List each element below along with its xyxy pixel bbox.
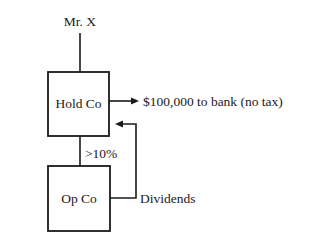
dividends-line [110, 124, 136, 198]
owner-label: Mr. X [64, 14, 97, 29]
ownership-label: >10% [85, 146, 117, 161]
dividends-label: Dividends [140, 191, 196, 206]
bank-flow-label: $100,000 to bank (no tax) [143, 94, 283, 109]
holdco-label: Hold Co [55, 96, 101, 111]
opco-label: Op Co [61, 191, 97, 206]
bank-flow-arrowhead-icon [131, 98, 139, 105]
dividends-arrowhead-icon [115, 121, 123, 128]
ownership-diagram: Mr. X Hold Co $100,000 to bank (no tax) … [0, 0, 316, 246]
